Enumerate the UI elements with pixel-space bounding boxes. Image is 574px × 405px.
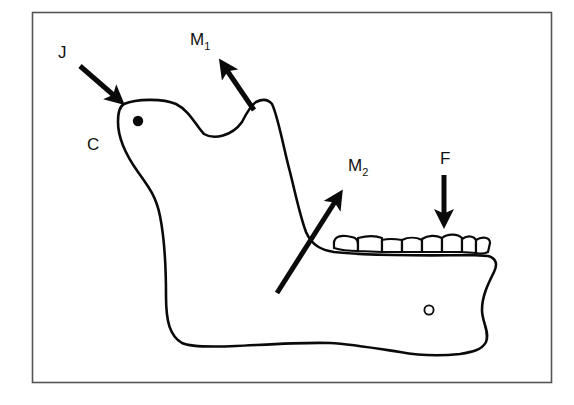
joint-force-arrow xyxy=(80,66,118,99)
figure-frame xyxy=(33,13,552,383)
mental-foramen-circle xyxy=(424,305,433,314)
tooth xyxy=(422,236,442,252)
label-condyle: C xyxy=(87,135,99,154)
tooth xyxy=(334,236,358,251)
tooth xyxy=(402,238,422,252)
label-bite-force: F xyxy=(440,149,450,168)
label-muscle-force-2: M2 xyxy=(348,156,368,178)
tooth xyxy=(462,236,476,253)
label-joint-force: J xyxy=(58,43,67,62)
mandible-force-diagram: J C M1 M2 F xyxy=(0,0,574,405)
tooth xyxy=(358,236,382,252)
label-muscle-force-1: M1 xyxy=(190,30,210,52)
condyle-center-dot xyxy=(133,116,143,126)
tooth xyxy=(476,238,490,254)
mandible-outline xyxy=(118,100,496,355)
tooth xyxy=(442,235,462,252)
muscle-force-2-arrow xyxy=(277,197,338,293)
muscle-force-1-arrow xyxy=(224,66,254,110)
teeth-row xyxy=(334,235,490,254)
tooth xyxy=(382,239,402,252)
